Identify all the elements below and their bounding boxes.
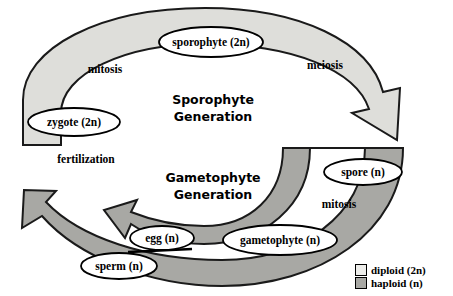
- haploid-swatch-icon: [355, 277, 367, 289]
- sporophyte-generation-line1: Sporophyte: [172, 92, 254, 107]
- legend-label-diploid: diploid (2n): [371, 264, 426, 276]
- mitosis-top-label: mitosis: [88, 63, 123, 75]
- gametophyte-generation-line2: Generation: [174, 187, 252, 202]
- meiosis-label: meiosis: [307, 59, 343, 71]
- spore-label: spore (n): [341, 166, 385, 179]
- sporophyte-label: sporophyte (2n): [172, 36, 250, 49]
- egg-label: egg (n): [145, 232, 179, 245]
- mitosis-bottom-label: mitosis: [322, 198, 357, 210]
- stage-gametophyte[interactable]: gametophyte (n): [223, 225, 337, 255]
- life-cycle-canvas: sporophyte (2n) zygote (2n) spore (n) ga…: [0, 0, 453, 296]
- legend-item-haploid: haploid (n): [355, 277, 447, 289]
- life-cycle-diagram: sporophyte (2n) zygote (2n) spore (n) ga…: [0, 0, 453, 296]
- diploid-swatch-icon: [355, 264, 367, 276]
- stage-sporophyte[interactable]: sporophyte (2n): [159, 27, 263, 57]
- stage-sperm[interactable]: sperm (n): [81, 253, 157, 279]
- stage-zygote[interactable]: zygote (2n): [28, 108, 120, 136]
- generation-captions: Sporophyte Generation Gametophyte Genera…: [165, 92, 260, 202]
- sperm-label: sperm (n): [95, 260, 143, 273]
- gametophyte-label: gametophyte (n): [240, 234, 320, 247]
- stage-egg[interactable]: egg (n): [130, 226, 194, 250]
- sporophyte-generation-line2: Generation: [174, 109, 252, 124]
- legend-item-diploid: diploid (2n): [355, 264, 447, 276]
- legend: diploid (2n) haploid (n): [355, 264, 447, 290]
- fertilization-label: fertilization: [57, 153, 115, 165]
- zygote-label: zygote (2n): [47, 116, 101, 129]
- legend-label-haploid: haploid (n): [371, 277, 423, 289]
- gametophyte-generation-line1: Gametophyte: [165, 170, 260, 185]
- stage-spore[interactable]: spore (n): [324, 159, 402, 185]
